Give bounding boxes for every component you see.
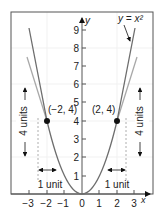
y-tick-label: 6 (73, 79, 79, 90)
point-right (114, 118, 120, 124)
point-right-label: (2, 4) (92, 104, 115, 115)
y-tick-label: 3 (73, 134, 79, 145)
y-tick-label: 8 (73, 43, 79, 54)
x-tick-label: 3 (131, 198, 137, 209)
x-tick-label: −1 (57, 198, 69, 209)
x-tick-label: 0 (79, 198, 85, 209)
one-unit-label-right: 1 unit (105, 179, 130, 190)
x-tick-label: −3 (22, 198, 34, 209)
x-tick-label: −2 (40, 198, 52, 209)
parabola-diagram: 1 2 3 4 5 6 7 8 9 y −3 −2 −1 0 1 2 3 x (… (0, 0, 164, 216)
y-tick-label: 4 (73, 116, 79, 127)
x-tick-label: 2 (114, 198, 120, 209)
point-left (44, 118, 50, 124)
y-axis-label: y (84, 15, 91, 26)
y-ticks (82, 30, 86, 176)
y-tick-label: 9 (73, 25, 79, 36)
y-tick-label: 7 (73, 61, 79, 72)
x-tick-label: 1 (96, 198, 102, 209)
point-left-label: (−2, 4) (48, 104, 77, 115)
y-tick-label: 1 (73, 171, 79, 182)
y-tick-label: 2 (73, 152, 79, 163)
x-axis-label: x (140, 195, 146, 205)
four-units-label-left: 4 units (18, 106, 29, 135)
curve-label: y = x² (117, 13, 143, 24)
four-units-label-right: 4 units (134, 106, 145, 135)
curve-label-arrow (124, 25, 130, 41)
one-unit-label-left: 1 unit (38, 179, 63, 190)
